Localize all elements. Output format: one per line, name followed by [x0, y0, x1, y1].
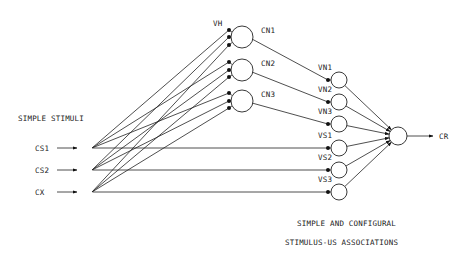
simple-stimuli-label: SIMPLE STIMULI [18, 114, 84, 123]
cr-label: CR [439, 132, 449, 141]
cx-label: CX [35, 188, 45, 197]
vs2-node [331, 162, 347, 178]
vs2-to-cr [346, 140, 390, 166]
synapse-dot [326, 146, 330, 150]
vn2-label: VN2 [318, 85, 332, 94]
vn3-label: VN3 [318, 107, 332, 116]
synapse-dot [326, 122, 330, 126]
cn3-label: CN3 [261, 90, 275, 99]
synapse-dot [227, 106, 231, 110]
vn1-label: VN1 [318, 63, 332, 72]
synapse-dot [227, 99, 231, 103]
vn2-node [331, 94, 347, 110]
cn3-node [231, 90, 253, 112]
cn2-label: CN2 [261, 59, 275, 68]
synapse-dot [326, 190, 330, 194]
cn2-node [231, 59, 253, 81]
cn1-label: CN1 [261, 26, 275, 35]
cs2-to-cn2 [92, 70, 229, 170]
synapse-dot [227, 43, 231, 47]
vs2-label: VS2 [318, 153, 332, 162]
synapse-dot [227, 35, 231, 39]
cr-node [389, 127, 407, 145]
cs1-label: CS1 [35, 144, 49, 153]
vn1-to-cr [345, 86, 392, 130]
vh-label: VH [213, 19, 223, 28]
cx-to-cn2 [92, 77, 229, 192]
vs1-label: VS1 [318, 131, 332, 140]
network-diagram: CS1CS2CXCN1CN2CN3VN1VN2VN3VS1VS2VS3 SIMP… [0, 0, 464, 255]
vs1-node [331, 140, 347, 156]
synapse-dot [326, 168, 330, 172]
vs3-node [331, 184, 347, 200]
vn2-to-cr [346, 106, 390, 132]
synapse-dot [227, 91, 231, 95]
vs3-to-cr [345, 142, 392, 186]
cn3-to-vn3 [252, 103, 328, 124]
synapse-dot [227, 60, 231, 64]
cs1-to-cn1 [92, 30, 229, 148]
synapse-dot [227, 75, 231, 79]
synapse-dot [227, 68, 231, 72]
synapse-dot [326, 100, 330, 104]
vn1-node [331, 72, 347, 88]
caption-line-2: STIMULUS-US ASSOCIATIONS [285, 238, 398, 247]
synapse-dot [227, 28, 231, 32]
cn1-node [231, 26, 253, 48]
caption-line-1: SIMPLE AND CONFIGURAL [297, 219, 396, 228]
vs3-label: VS3 [318, 175, 332, 184]
cs2-label: CS2 [35, 166, 49, 175]
vn3-node [331, 116, 347, 132]
synapse-dot [326, 78, 330, 82]
